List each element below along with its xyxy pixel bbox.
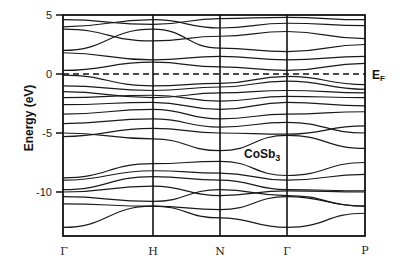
band-line xyxy=(63,109,365,118)
kpoint-label-gamma1: Γ xyxy=(60,245,68,258)
ytick-label-minus5: -5 xyxy=(42,127,52,139)
band-line xyxy=(63,186,365,195)
band-line xyxy=(63,102,365,109)
ytick-label-0: 0 xyxy=(46,68,52,80)
band-line xyxy=(63,81,365,90)
fermi-level-label: EF xyxy=(372,68,385,83)
kpoint-label-P: P xyxy=(361,244,369,257)
band-line xyxy=(63,20,365,28)
ytick-label-minus10: -10 xyxy=(36,186,52,198)
band-line xyxy=(63,133,365,151)
band-line xyxy=(63,171,365,180)
band-line xyxy=(63,62,365,70)
kpoint-label-H: H xyxy=(148,245,158,258)
band-lines xyxy=(63,17,365,227)
y-axis-label: Energy (eV) xyxy=(22,85,36,152)
band-line xyxy=(63,95,365,101)
band-structure-plot: 5 0 -5 -10 Energy (eV) Γ H N Γ P EF CoSb… xyxy=(0,0,403,269)
band-line xyxy=(63,190,365,207)
kpoint-label-N: N xyxy=(215,245,225,258)
band-line xyxy=(63,29,365,51)
kpoint-label-gamma2: Γ xyxy=(283,245,291,258)
material-annotation: CoSb3 xyxy=(244,147,280,163)
band-line xyxy=(63,53,365,60)
ytick-label-5: 5 xyxy=(46,9,52,21)
